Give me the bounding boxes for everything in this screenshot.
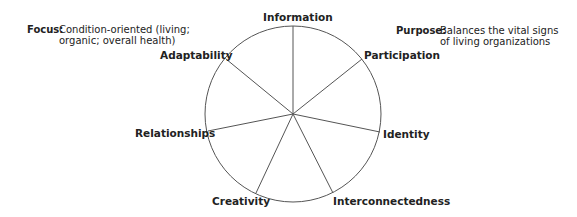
spoke-identity bbox=[293, 114, 380, 132]
spoke-relationships bbox=[208, 114, 293, 131]
vital-signs-wheel bbox=[0, 0, 577, 217]
spoke-interconnectedness bbox=[293, 114, 333, 193]
label-relationships: Relationships bbox=[135, 127, 215, 139]
label-participation: Participation bbox=[364, 49, 440, 61]
spoke-creativity bbox=[256, 114, 293, 193]
label-identity: Identity bbox=[383, 128, 430, 140]
label-adaptability: Adaptability bbox=[160, 49, 233, 61]
label-creativity: Creativity bbox=[212, 195, 270, 207]
label-interconnectedness: Interconnectedness bbox=[333, 195, 450, 207]
spoke-adaptability bbox=[226, 59, 293, 114]
label-information: Information bbox=[263, 11, 333, 23]
spoke-participation bbox=[293, 59, 362, 114]
